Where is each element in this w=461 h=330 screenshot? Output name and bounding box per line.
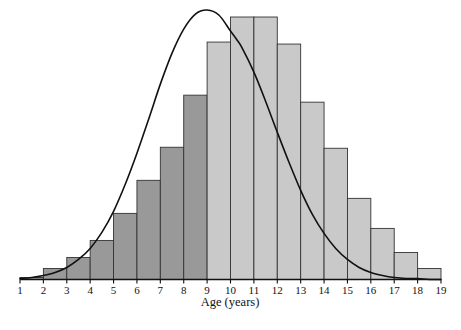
x-axis-tick-label: 17: [389, 284, 401, 296]
x-axis-tick-label: 3: [64, 284, 70, 296]
x-axis-title: Age (years): [201, 295, 260, 309]
x-axis-tick-label: 13: [295, 284, 307, 296]
x-axis-tick-label: 14: [319, 284, 331, 296]
x-axis-tick-label: 5: [111, 284, 117, 296]
histogram-bar: [231, 17, 254, 279]
histogram-figure: 12345678910111213141516171819 Age (years…: [0, 0, 461, 330]
x-axis-tick-label: 15: [342, 284, 354, 296]
x-axis-tick-label: 16: [365, 284, 377, 296]
histogram-bar: [137, 180, 160, 279]
histogram-bar: [418, 268, 441, 279]
histogram-bar: [67, 257, 90, 279]
histogram-bar: [301, 102, 324, 279]
histogram-bar: [394, 252, 417, 279]
histogram-bar: [254, 17, 277, 279]
histogram-bar: [184, 95, 207, 279]
histogram-bar: [90, 240, 113, 279]
x-axis-tick-label: 12: [272, 284, 283, 296]
histogram-bar: [371, 228, 394, 279]
chart-canvas: 12345678910111213141516171819 Age (years…: [0, 0, 461, 330]
x-axis-tick-label: 7: [158, 284, 164, 296]
bars-group: [20, 17, 441, 279]
x-axis-tick-label: 2: [41, 284, 47, 296]
histogram-bar: [324, 148, 347, 279]
x-axis-tick-label: 19: [436, 284, 448, 296]
x-axis-tick-label: 18: [412, 284, 424, 296]
x-axis-tick-label: 4: [87, 284, 93, 296]
histogram-bar: [160, 147, 183, 279]
x-axis-tick-label: 6: [134, 284, 140, 296]
x-axis-tick-label: 1: [17, 284, 23, 296]
histogram-bar: [114, 213, 137, 279]
x-axis-tick-label: 8: [181, 284, 187, 296]
histogram-bar: [207, 42, 230, 279]
